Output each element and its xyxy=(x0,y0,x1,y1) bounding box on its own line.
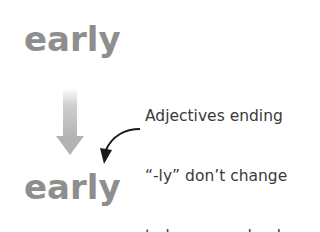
word-after: early xyxy=(24,170,121,204)
curved-arrow-icon xyxy=(100,129,140,164)
down-arrow-icon xyxy=(56,88,84,155)
annotation-line-1: Adjectives ending xyxy=(145,106,300,126)
annotation-text: Adjectives ending “-ly” don’t change to … xyxy=(145,66,300,232)
annotation-line-3: to become adverbs. xyxy=(145,226,300,232)
annotation-line-2: “-ly” don’t change xyxy=(145,166,300,186)
